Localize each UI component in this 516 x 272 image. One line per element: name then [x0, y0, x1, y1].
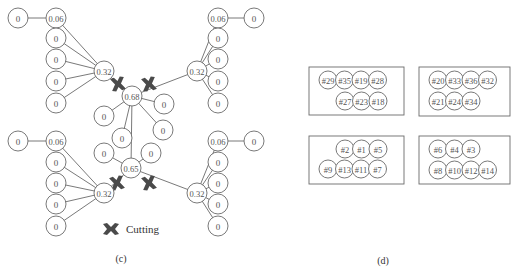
- leaf-node: 0: [208, 49, 228, 69]
- member-node: #12: [462, 161, 480, 179]
- cluster-group: #20#33#36#32#21#24#34: [419, 67, 510, 116]
- node-label: 0: [149, 149, 154, 159]
- member-node: #32: [479, 71, 497, 89]
- member-label: #29: [322, 76, 335, 86]
- member-node: #10: [446, 161, 464, 179]
- outer-leaf-node: 0: [8, 131, 28, 151]
- node-label: 0: [252, 14, 257, 24]
- member-node: #28: [369, 71, 387, 89]
- member-label: #20: [432, 76, 445, 86]
- leaf-node: 0: [208, 216, 228, 236]
- member-label: #4: [450, 145, 459, 155]
- leaf-node: 0: [208, 93, 228, 113]
- member-node: #5: [369, 140, 387, 158]
- outer-leaf-node: 0: [244, 131, 264, 151]
- leaf-node: 0: [141, 143, 161, 163]
- member-node: #36: [462, 71, 480, 89]
- center-hub-top: 0.68: [122, 86, 142, 106]
- leaf-node: 0: [153, 120, 173, 140]
- node-label: 0: [120, 134, 125, 144]
- cluster-hub-top-left: 0.32: [94, 61, 114, 81]
- leaf-node: 0: [208, 28, 228, 48]
- cluster-hub-bottom-right: 0.32: [187, 183, 207, 203]
- member-node: #13: [336, 160, 354, 178]
- member-label: #35: [338, 76, 351, 86]
- node-label: 0: [54, 77, 59, 87]
- member-label: #34: [465, 97, 479, 107]
- member-label: #7: [373, 165, 382, 175]
- member-node: #27: [336, 92, 354, 110]
- member-node: #9: [319, 160, 337, 178]
- leaf-node: 0: [46, 49, 66, 69]
- node-label: 0: [54, 158, 59, 168]
- node-label: 0: [54, 222, 59, 232]
- member-label: #5: [374, 145, 383, 155]
- node-label: 0.32: [97, 189, 112, 199]
- caption-d: (d): [377, 255, 389, 267]
- panel-d: #29#35#19#28#27#23#18#20#33#36#32#21#24#…: [309, 67, 510, 184]
- member-node: #24: [446, 92, 464, 110]
- member-node: #14: [479, 161, 497, 179]
- member-label: #19: [355, 76, 368, 86]
- member-node: #19: [352, 71, 370, 89]
- leaf-node: 0.06: [208, 8, 228, 28]
- member-node: #23: [353, 92, 371, 110]
- leaf-node: 0: [46, 194, 66, 214]
- node-label: 0: [216, 222, 221, 232]
- member-label: #33: [448, 76, 461, 86]
- node-label: 0: [216, 77, 221, 87]
- leaf-node: 0: [46, 173, 66, 193]
- member-node: #35: [336, 71, 354, 89]
- member-node: #18: [369, 92, 387, 110]
- leaf-node: 0: [208, 152, 228, 172]
- leaf-node: 0: [46, 152, 66, 172]
- member-label: #18: [372, 97, 385, 107]
- legend-label: Cutting: [126, 223, 160, 235]
- node-label: 0.32: [190, 67, 205, 77]
- member-node: #29: [319, 71, 337, 89]
- leaf-node: 0: [208, 173, 228, 193]
- center-hub-bottom: 0.65: [121, 158, 141, 178]
- node-label: 0: [162, 100, 167, 110]
- member-label: #8: [434, 166, 443, 176]
- leaf-node: 0.06: [208, 131, 228, 151]
- member-node: #33: [446, 71, 464, 89]
- node-label: 0: [54, 55, 59, 65]
- node-label: 0: [16, 14, 21, 24]
- node-label: 0.65: [124, 164, 139, 174]
- cluster-group: #2#1#5#9#13#11#7: [309, 136, 404, 184]
- legend: Cutting: [103, 223, 160, 235]
- member-label: #24: [448, 97, 462, 107]
- node-label: 0.06: [211, 137, 226, 147]
- member-label: #36: [465, 76, 478, 86]
- leaf-node: 0: [46, 71, 66, 91]
- cluster-hub-top-right: 0.32: [187, 61, 207, 81]
- node-label: 0: [161, 126, 166, 136]
- node-label: 0: [102, 112, 107, 122]
- leaf-node: 0: [46, 28, 66, 48]
- edge-cut-link: [131, 168, 197, 193]
- node-label: 0: [216, 179, 221, 189]
- cutting-icon: [110, 76, 126, 92]
- member-label: #1: [357, 145, 366, 155]
- cluster-hub-bottom-left: 0.32: [94, 183, 114, 203]
- node-label: 0: [102, 149, 107, 159]
- member-label: #27: [339, 97, 352, 107]
- member-node: #7: [369, 160, 387, 178]
- cutting-icon: [103, 223, 119, 235]
- node-label: 0.32: [190, 189, 205, 199]
- cluster-group: #29#35#19#28#27#23#18: [309, 67, 404, 115]
- member-label: #28: [371, 76, 384, 86]
- member-node: #3: [462, 140, 480, 158]
- member-node: #1: [353, 140, 371, 158]
- leaf-node: 0: [154, 94, 174, 114]
- member-label: #23: [355, 97, 368, 107]
- node-label: 0.06: [211, 14, 226, 24]
- member-label: #13: [338, 165, 351, 175]
- leaf-node: 0.06: [46, 8, 66, 28]
- cluster-group: #6#4#3#8#10#12#14: [419, 136, 510, 184]
- node-label: 0: [216, 99, 221, 109]
- member-label: #12: [465, 166, 478, 176]
- edge-trunk: [131, 96, 132, 168]
- member-label: #3: [467, 145, 476, 155]
